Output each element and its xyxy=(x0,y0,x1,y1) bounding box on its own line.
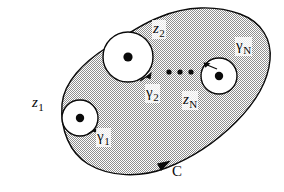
label-contour-gamma-1: γ1 xyxy=(96,128,111,147)
label-gamma-1-base: γ xyxy=(97,128,104,144)
inner-contour-gamma-n-group xyxy=(201,58,237,94)
outer-contour-region xyxy=(62,8,271,175)
ellipsis-dot xyxy=(188,69,193,74)
inner-contour-gamma-1-group xyxy=(62,100,98,136)
singularity-point-z-1 xyxy=(76,114,84,122)
shaded-region-group xyxy=(62,8,271,175)
ellipsis-dots-group xyxy=(166,69,193,74)
label-gamma-2-subscript: 2 xyxy=(153,91,159,103)
label-z-1-subscript: 1 xyxy=(38,101,44,113)
label-gamma-n-base: γ xyxy=(236,37,243,53)
label-z-n-subscript: N xyxy=(189,98,197,110)
label-gamma-2-base: γ xyxy=(146,84,153,100)
inner-contour-gamma-2-group xyxy=(103,32,153,82)
label-z-2-base: z xyxy=(153,20,159,36)
label-gamma-1-subscript: 1 xyxy=(104,135,110,147)
label-outer-contour-c: C xyxy=(172,163,182,179)
label-z-n-base: z xyxy=(183,91,189,107)
ellipsis-dot xyxy=(177,69,182,74)
label-singularity-z-2: z2 xyxy=(152,20,166,39)
label-gamma-n-subscript: N xyxy=(243,44,251,56)
label-contour-gamma-n: γN xyxy=(235,37,252,56)
label-c-text: C xyxy=(172,163,182,179)
ellipsis-dot xyxy=(166,69,171,74)
label-z-1-base: z xyxy=(32,94,38,110)
label-contour-gamma-2: γ2 xyxy=(145,84,160,103)
singularity-point-z-n xyxy=(215,72,223,80)
contour-diagram-figure: z1 γ1 z2 γ2 zN γN C xyxy=(0,0,284,192)
singularity-point-z-2 xyxy=(123,52,132,61)
label-singularity-z-1: z1 xyxy=(31,94,45,113)
label-singularity-z-n: zN xyxy=(182,91,198,110)
label-z-2-subscript: 2 xyxy=(159,27,165,39)
